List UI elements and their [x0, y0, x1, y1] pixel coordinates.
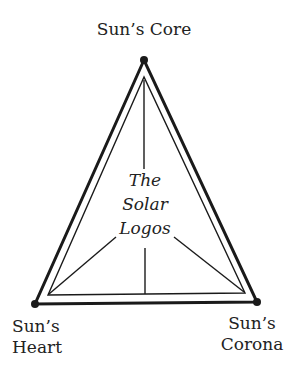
- label-suns-corona: Sun’s Corona: [214, 313, 290, 355]
- label-suns-corona-line1: Sun’s: [214, 313, 290, 334]
- label-suns-heart-line1: Sun’s: [12, 316, 72, 337]
- center-line1: The: [110, 168, 180, 192]
- center-line3: Logos: [110, 216, 180, 240]
- center-line2: Solar: [110, 192, 180, 216]
- label-suns-heart: Sun’s Heart: [12, 316, 72, 358]
- vertex-dot-bottom-left: [31, 300, 39, 308]
- connector-left: [49, 237, 116, 294]
- label-suns-heart-line2: Heart: [12, 337, 72, 358]
- vertex-dot-top: [140, 56, 148, 64]
- center-label-solar-logos: The Solar Logos: [110, 168, 180, 240]
- connector-right: [174, 237, 244, 292]
- vertex-dot-bottom-right: [253, 298, 261, 306]
- label-suns-corona-line2: Corona: [214, 334, 290, 355]
- label-suns-core: Sun’s Core: [91, 19, 197, 40]
